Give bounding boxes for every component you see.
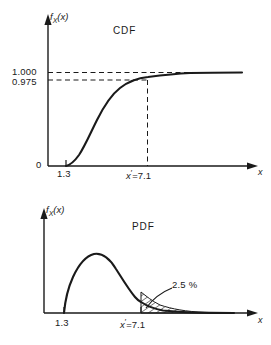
cdf-curve [66,73,242,167]
pdf-x-axis-label: x [258,316,263,325]
pdf-xtick-13: 1.3 [55,318,69,328]
cdf-panel: fX(x) CDF 1.000 0.975 0 1.3 x′=7.1 x [0,0,271,180]
pdf-xtick-xprime: x′=7.1 [120,318,145,330]
pdf-tail-region [141,292,232,313]
cdf-xtick-xprime: x′=7.1 [126,169,151,181]
pdf-panel: fX(x) PDF 2.5 % 1.3 x′=7.1 x [0,180,271,345]
cdf-y-axis-label: fX(x) [50,12,68,24]
pdf-y-axis [40,208,47,313]
cdf-x-axis-label: x [258,168,263,177]
cdf-y-axis [44,14,51,166]
pdf-title: PDF [132,222,155,232]
cdf-title: CDF [113,26,136,36]
figure-container: fX(x) CDF 1.000 0.975 0 1.3 x′=7.1 x [0,0,271,345]
cdf-ytick-0975: 0.975 [12,77,37,87]
cdf-ytick-0: 0 [36,160,41,170]
cdf-x-axis [48,162,258,169]
pdf-y-axis-label: fX(x) [46,205,64,217]
cdf-xtick-13: 1.3 [57,169,71,179]
pdf-tail-annotation: 2.5 % [172,280,197,290]
